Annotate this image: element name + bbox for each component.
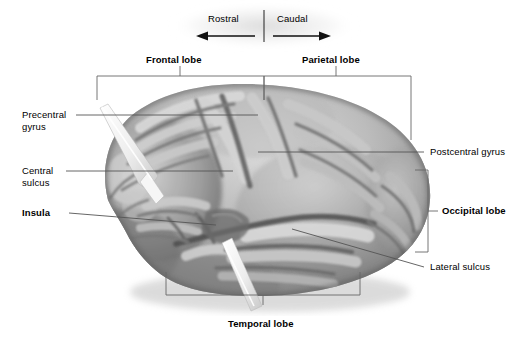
label-caudal: Caudal [277,13,308,25]
brain-anatomy-figure: Rostral Caudal Frontal lobe Parietal lob… [0,0,528,347]
label-central-sulcus: Central sulcus [22,165,53,188]
label-lateral-sulcus: Lateral sulcus [430,261,490,273]
brain-illustration [0,0,528,347]
label-precentral-gyrus: Precentral gyrus [22,109,66,132]
label-parietal-lobe: Parietal lobe [302,54,360,66]
label-frontal-lobe: Frontal lobe [146,54,202,66]
label-postcentral-gyrus: Postcentral gyrus [430,146,505,158]
brain-body [76,70,450,315]
label-occipital-lobe: Occipital lobe [442,205,506,217]
label-temporal-lobe: Temporal lobe [228,318,294,330]
label-insula: Insula [22,207,50,219]
label-rostral: Rostral [208,13,239,25]
